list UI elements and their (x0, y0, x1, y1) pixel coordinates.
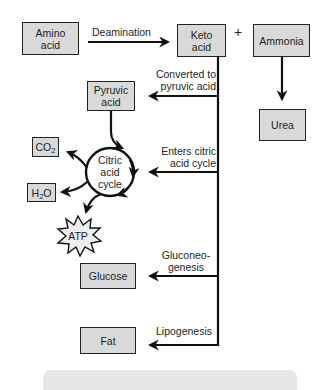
pyruvic-line2: acid (101, 96, 120, 108)
enters-line1: Enters citric (161, 145, 216, 157)
amino-acid-line2: acid (41, 39, 60, 51)
keto-acid-line2: acid (192, 41, 211, 53)
fat-box: Fat (80, 327, 136, 354)
caption-bar (43, 370, 297, 390)
co2-subscript: 2 (51, 146, 55, 155)
converted-line1: Converted to (156, 68, 216, 80)
ammonia-label: Ammonia (259, 35, 303, 47)
fat-label: Fat (100, 335, 115, 347)
converted-to-pyruvic-label: Converted topyruvic acid (156, 68, 216, 92)
amino-acid-line1: Amino (36, 27, 66, 39)
glucose-label: Glucose (89, 270, 128, 282)
keto-acid-box: Ketoacid (177, 24, 226, 57)
citric-acid-cycle-label: Citric acid cycle (88, 154, 132, 190)
cycle-line2: acid (100, 166, 119, 178)
urea-box: Urea (259, 109, 306, 141)
enters-line2: acid cycle (170, 157, 216, 169)
urea-label: Urea (271, 119, 294, 131)
co2-main: CO (36, 141, 52, 153)
cycle-to-atp-arrow (86, 194, 101, 212)
gluconeogenesis-label: Gluconeo-genesis (156, 249, 216, 273)
enters-citric-label: Enters citricacid cycle (161, 145, 216, 169)
ammonia-box: Ammonia (253, 24, 310, 57)
cycle-to-h2o-arrow (62, 182, 87, 192)
h2o-pre: H (32, 187, 40, 199)
cycle-line3: cycle (98, 178, 122, 190)
keto-acid-line1: Keto (191, 29, 213, 41)
amino-acid-box: Aminoacid (22, 22, 79, 55)
lipogenesis-label: Lipogenesis (156, 325, 212, 337)
cycle-line1: Citric (98, 154, 122, 166)
plus-sign: + (234, 26, 242, 38)
pyruvic-to-cycle-arrow (111, 111, 122, 148)
atp-label: ATP (62, 230, 94, 242)
gluconeo-line2: genesis (168, 261, 204, 273)
h2o-box: H2O (27, 183, 56, 202)
pyruvic-acid-box: Pyruvicacid (87, 81, 135, 111)
pyruvic-line1: Pyruvic (94, 84, 128, 96)
glucose-box: Glucose (80, 263, 136, 289)
deamination-label: Deamination (92, 26, 151, 38)
gluconeo-line1: Gluconeo- (162, 249, 210, 261)
co2-box: CO2 (32, 137, 59, 157)
converted-line2: pyruvic acid (161, 80, 216, 92)
cycle-to-co2-arrow (68, 152, 87, 168)
h2o-post: O (43, 187, 51, 199)
